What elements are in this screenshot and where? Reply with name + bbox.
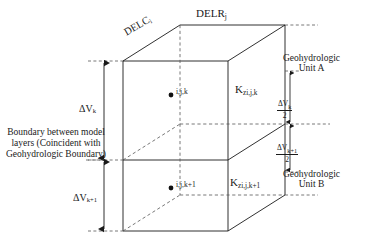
unit-b-line2: Unit B — [283, 180, 340, 190]
half-thickness-fraction-k1: ΔVk+1 2 — [276, 144, 298, 163]
layer-thickness-label-k: ΔVk — [79, 104, 96, 115]
node-dot-lower — [169, 186, 174, 191]
vertical-conductance-label-upper: Kzi,j,k — [235, 84, 257, 97]
geohydrologic-unit-b-label: Geohydrologic Unit B — [283, 170, 340, 190]
node-label-lower: i,j,k+1 — [176, 181, 196, 189]
fraction-denominator: 2 — [276, 156, 298, 164]
delr-label: DELRj — [196, 8, 227, 21]
hidden-left-bottom-diagonal — [123, 195, 180, 231]
layer-thickness-label-k1: ΔVk+1 — [73, 193, 97, 204]
fraction-numerator: ΔVk — [277, 100, 292, 110]
figure-canvas: DELRj DELCi i,j,k i,j,k+1 Kzi,j,k Kzi,j,… — [0, 0, 366, 252]
node-label-upper: i,j,k — [176, 88, 188, 96]
top-face-right-edge — [228, 25, 285, 61]
cell-diagram-svg — [0, 0, 366, 252]
right-face-bottom-edge — [228, 195, 285, 231]
hidden-left-boundary-diagonal — [123, 124, 180, 160]
unit-a-line2: Unit A — [283, 64, 340, 74]
cell-solid-edges — [123, 25, 285, 231]
cell-hidden-edges — [123, 25, 285, 231]
fraction-denominator: 2 — [277, 112, 292, 120]
node-dot-upper — [169, 93, 174, 98]
model-layer-boundary-label: Boundary between model layers (Coinciden… — [4, 127, 108, 161]
geohydrologic-unit-a-label: Geohydrologic Unit A — [283, 54, 340, 74]
vertical-conductance-label-lower: Kzi,j,k+1 — [230, 177, 260, 190]
fraction-numerator: ΔVk+1 — [276, 144, 298, 154]
half-thickness-fraction-k: ΔVk 2 — [277, 100, 292, 119]
